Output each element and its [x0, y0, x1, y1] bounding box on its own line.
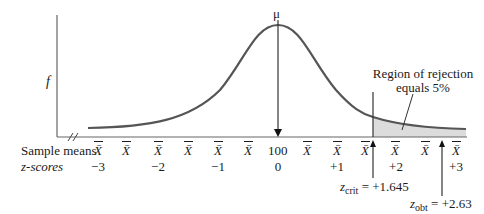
z-crit-subscript: crit — [345, 185, 358, 196]
z-score-value: −2 — [147, 160, 169, 173]
z-score-value: −3 — [87, 160, 109, 173]
sample-means-row-label: Sample means — [21, 144, 96, 157]
sample-mean-value: X̄ — [211, 144, 225, 157]
z-obt-value: = +2.63 — [431, 196, 472, 211]
normal-distribution-figure — [0, 0, 484, 214]
z-score-value: +1 — [326, 160, 348, 173]
rejection-label-line2: equals 5% — [368, 81, 478, 94]
sample-mean-value: X̄ — [151, 144, 165, 157]
sample-mean-value: X̄ — [181, 144, 195, 157]
z-crit-value: = +1.645 — [362, 179, 409, 194]
sample-mean-value: X̄ — [388, 144, 402, 157]
rejection-label-line1: Region of rejection — [368, 67, 478, 80]
y-axis-label: f — [46, 75, 50, 89]
sample-mean-value: X̄ — [300, 144, 314, 157]
z-scores-row-label: z-scores — [21, 160, 63, 173]
sample-mean-value: X̄ — [91, 144, 105, 157]
z-crit-annotation: zcrit = +1.645 — [340, 180, 409, 196]
z-score-value: +3 — [445, 160, 467, 173]
sample-mean-value: X̄ — [119, 144, 133, 157]
sample-mean-value: X̄ — [241, 144, 255, 157]
z-obt-annotation: zobt = +2.63 — [410, 197, 472, 213]
z-score-value: +2 — [385, 160, 407, 173]
mean-label: μ — [273, 7, 280, 20]
sample-mean-value: X̄ — [358, 144, 372, 157]
z-obt-subscript: obt — [415, 202, 428, 213]
sample-mean-value: X̄ — [449, 144, 463, 157]
z-score-value: −1 — [207, 160, 229, 173]
sample-mean-value: X̄ — [418, 144, 432, 157]
z-score-value: 0 — [267, 160, 289, 173]
mean-arrowhead-icon — [274, 129, 282, 137]
z-obt-arrowhead-icon — [439, 140, 445, 147]
sample-mean-center-value: 100 — [268, 144, 288, 157]
sample-mean-value: X̄ — [330, 144, 344, 157]
